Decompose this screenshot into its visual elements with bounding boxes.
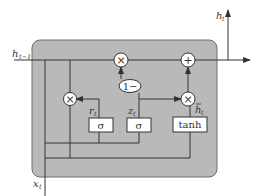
add-node: + (181, 53, 195, 67)
svg-text:h: h (12, 48, 18, 59)
svg-text:σ: σ (136, 120, 143, 131)
svg-text:t: t (94, 110, 97, 118)
multiply-node-candidate: × (181, 92, 195, 106)
svg-text:×: × (116, 54, 125, 67)
svg-text:t: t (201, 109, 204, 117)
sigma-update-gate: σ (127, 118, 151, 132)
label-h-out: h t (216, 10, 225, 23)
tanh-box: tanh (173, 117, 207, 132)
svg-text:1−: 1− (123, 81, 138, 92)
svg-text:×: × (183, 93, 192, 106)
gru-cell-diagram: × + 1− × × σ σ tanh h t−1 h t (0, 0, 261, 196)
svg-text:σ: σ (98, 120, 105, 131)
svg-text:tanh: tanh (179, 119, 202, 130)
multiply-node-reset: × (64, 93, 77, 107)
svg-text:+: + (183, 54, 192, 67)
multiply-node-top: × (114, 53, 128, 67)
svg-text:t−1: t−1 (19, 53, 31, 61)
svg-text:×: × (65, 93, 74, 106)
svg-text:t: t (222, 15, 225, 23)
one-minus-node: 1− (119, 80, 141, 93)
svg-text:t: t (133, 110, 136, 118)
sigma-reset-gate: σ (89, 118, 113, 132)
svg-text:t: t (39, 183, 42, 191)
label-h-prev: h t−1 (12, 48, 31, 61)
label-x-in: x t (33, 178, 42, 191)
